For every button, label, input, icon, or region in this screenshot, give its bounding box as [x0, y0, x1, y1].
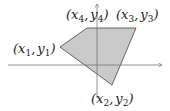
quadrilateral [60, 28, 136, 85]
vertex-label-1: (x1,y1) [13, 41, 55, 58]
diagram-canvas: (x1,y1) (x4,y4) (x3,y3) (x2,y2) [0, 0, 170, 111]
vertex-label-4: (x4,y4) [66, 7, 108, 24]
vertex-label-3: (x3,y3) [116, 7, 158, 24]
vertex-label-2: (x2,y2) [91, 91, 133, 108]
